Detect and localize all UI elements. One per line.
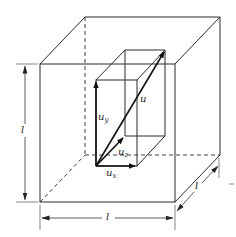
cube-bottom-right-depth-edge <box>175 155 220 202</box>
cube-velocity-diagram: u uy uz ux l l l <box>0 0 236 237</box>
label-uy: uy <box>98 112 108 124</box>
cube-top-right-depth-edge <box>175 17 220 64</box>
cube-top-left-depth-edge <box>40 17 85 64</box>
diagram-canvas <box>0 0 236 237</box>
label-u-resultant: u <box>140 94 146 104</box>
inner-box-bottom-right-depth-edge <box>137 136 165 166</box>
label-ux: ux <box>106 168 116 180</box>
inner-box-top-left-depth-edge <box>96 50 125 80</box>
label-height-l: l <box>21 125 24 135</box>
depth-dimension <box>177 158 234 211</box>
inner-box-top-right-depth-edge <box>137 50 165 80</box>
depth-arrow-front <box>177 192 194 211</box>
label-uz: uz <box>118 147 128 159</box>
cube-hidden-bottom-left-depth-edge <box>40 155 85 202</box>
depth-arrow-back <box>202 166 218 183</box>
height-dimension <box>16 64 38 202</box>
label-depth-l: l <box>195 181 198 191</box>
label-width-l: l <box>106 212 109 222</box>
